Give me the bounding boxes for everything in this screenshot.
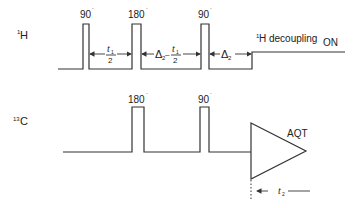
svg-text:180: 180 <box>128 94 145 105</box>
svg-text:90: 90 <box>198 9 210 20</box>
svg-text:˙: ˙ <box>146 93 148 100</box>
delay-delta2: Δ 2 <box>210 48 251 61</box>
svg-text:90: 90 <box>80 9 92 20</box>
svg-text:2: 2 <box>282 191 285 197</box>
h-channel-trace <box>58 24 345 69</box>
svg-text:˙: ˙ <box>92 8 94 15</box>
pulse-sequence-diagram: 1 H 13 C 90 ˙ 180 ˙ 90 ˙ t 1 2 Δ 2 – t 1… <box>0 0 359 208</box>
svg-text:1: 1 <box>176 49 179 55</box>
h-decoupling-label: 1 H decoupling ON <box>256 33 338 48</box>
channel-label-1h: 1 H <box>17 29 28 41</box>
delay-t1-half-1: t 1 2 <box>90 43 131 65</box>
h-pulse-label-180: 180 ˙ <box>128 8 148 20</box>
svg-text:˙: ˙ <box>146 8 148 15</box>
svg-text:–: – <box>165 50 170 59</box>
svg-text:t: t <box>107 43 110 54</box>
svg-text:2: 2 <box>173 56 178 65</box>
delay-delta2-minus-t1-half: Δ 2 – t 1 2 <box>142 43 200 65</box>
aqt-label: AQT <box>287 128 308 139</box>
channel-label-13c: 13 C <box>13 115 28 127</box>
h-pulse-label-90-2: 90 ˙ <box>198 8 212 20</box>
h-pulse-label-90-1: 90 ˙ <box>80 8 94 20</box>
svg-text:H: H <box>20 29 28 41</box>
c-pulse-label-180: 180 ˙ <box>128 93 148 105</box>
svg-text:180: 180 <box>128 9 145 20</box>
t2-arrow: t 2 <box>257 185 310 197</box>
svg-text:H decoupling: H decoupling <box>259 33 317 44</box>
svg-text:1: 1 <box>111 49 114 55</box>
svg-text:ON: ON <box>323 37 338 48</box>
svg-text:90: 90 <box>198 94 210 105</box>
svg-text:˙: ˙ <box>210 8 212 15</box>
svg-text:2: 2 <box>108 56 113 65</box>
svg-text:t: t <box>278 185 281 196</box>
c-pulse-label-90: 90 ˙ <box>198 93 212 105</box>
c-channel-trace <box>63 107 251 152</box>
svg-text:C: C <box>20 115 28 127</box>
svg-text:2: 2 <box>228 55 232 61</box>
svg-text:t: t <box>172 43 175 54</box>
svg-text:˙: ˙ <box>210 93 212 100</box>
